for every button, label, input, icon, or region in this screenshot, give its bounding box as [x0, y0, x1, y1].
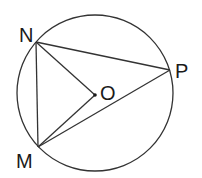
label-m: M	[16, 150, 33, 172]
label-p: P	[175, 60, 188, 82]
label-n: N	[19, 24, 33, 46]
segment-no	[36, 42, 95, 95]
segment-nm	[36, 42, 38, 147]
segment-np	[36, 42, 170, 70]
circle	[17, 15, 173, 171]
segment-mo	[38, 95, 95, 147]
geometry-diagram: N M P O	[0, 0, 202, 178]
center-point	[93, 93, 97, 97]
label-o: O	[100, 82, 116, 104]
